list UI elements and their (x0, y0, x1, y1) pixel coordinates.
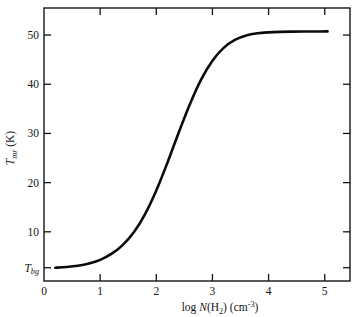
x-title-tail: ) (255, 301, 259, 314)
x-tick-label-0: 0 (41, 285, 47, 297)
x-tick-label-5: 5 (322, 285, 328, 297)
axes-frame (44, 8, 350, 281)
x-tick-label-4: 4 (266, 285, 272, 297)
x-tick-label-2: 2 (153, 285, 159, 297)
x-axis-ticks-bottom (100, 274, 325, 281)
x-title-close: ) (cm (223, 301, 248, 314)
x-tick-label-1: 1 (97, 285, 103, 297)
y-axis-ticks-right (343, 35, 350, 268)
chart-figure: 012345 Tbg1020304050 log N(H2) (cm-3) Tm… (0, 0, 362, 317)
x-axis-ticks-top (100, 8, 325, 15)
x-title-log: log (182, 301, 200, 314)
y-tick-label-40: 40 (28, 78, 40, 90)
plot-area: 012345 Tbg1020304050 log N(H2) (cm-3) Tm… (0, 0, 362, 317)
tbg-subscript: bg (31, 267, 39, 276)
x-title-open: (H (207, 301, 219, 314)
y-axis-title: Tmr (K) (4, 131, 19, 166)
x-axis-title: log N(H2) (cm-3) (182, 300, 259, 315)
y-tick-label-20: 20 (28, 177, 40, 189)
y-axis-ticks-left (44, 35, 51, 268)
data-series-curve (55, 31, 327, 267)
x-title-sup: -3 (248, 300, 255, 309)
x-tick-label-3: 3 (210, 285, 216, 297)
y-tick-label-50: 50 (28, 29, 40, 41)
y-tick-label-Tbg: Tbg (24, 262, 39, 277)
y-tick-label-10: 10 (28, 226, 40, 238)
y-tick-label-30: 30 (28, 127, 40, 139)
x-axis-tick-labels: 012345 (41, 285, 328, 297)
y-title-unit: (K) (4, 131, 17, 150)
y-axis-tick-labels: Tbg1020304050 (24, 29, 39, 276)
